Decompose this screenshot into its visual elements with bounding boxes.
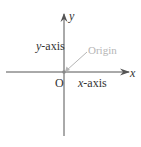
y-axis-label-text: -axis [41, 39, 64, 53]
origin-dot [62, 70, 66, 74]
x-axis-label: x-axis [78, 77, 107, 89]
coordinate-diagram: y y-axis Origin O x-axis x [0, 0, 141, 147]
origin-callout-line [67, 52, 87, 70]
x-axis-label-text: -axis [83, 76, 106, 90]
y-axis-label: y-axis [36, 40, 65, 52]
x-variable-label: x [130, 67, 135, 79]
y-variable-label: y [69, 10, 74, 22]
origin-callout-label: Origin [88, 45, 117, 56]
origin-point-label: O [55, 77, 64, 89]
